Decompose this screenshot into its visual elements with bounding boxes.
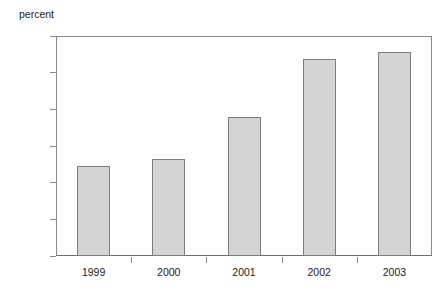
x-axis-tick (131, 257, 132, 263)
x-tick-label: 2001 (206, 266, 281, 279)
x-axis-tick (357, 257, 358, 263)
x-axis-tick (282, 257, 283, 263)
x-tick-label: 2000 (131, 266, 206, 279)
y-tick-mark (50, 182, 56, 183)
y-tick-mark (50, 109, 56, 110)
x-tick-label: 2003 (357, 266, 432, 279)
y-tick-mark (50, 146, 56, 147)
y-tick-mark (50, 72, 56, 73)
y-tick-mark (50, 219, 56, 220)
bar (378, 52, 411, 256)
y-tick-mark (50, 256, 56, 257)
bar (77, 166, 110, 256)
x-axis-tick (206, 257, 207, 263)
y-tick-mark (50, 36, 56, 37)
bar (152, 159, 185, 256)
x-tick-label: 2002 (282, 266, 357, 279)
bar (228, 117, 261, 256)
bar (303, 59, 336, 256)
y-axis-title: percent (19, 8, 54, 20)
bar-chart: percent 6.57.07.58.08.59.09.5 1999200020… (0, 0, 448, 291)
x-tick-label: 1999 (56, 266, 131, 279)
